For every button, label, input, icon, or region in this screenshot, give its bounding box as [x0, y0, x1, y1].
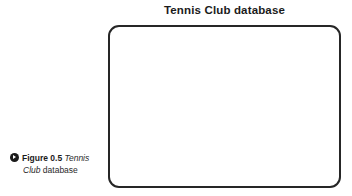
diagram-container: [108, 25, 341, 188]
play-circle-icon: [10, 153, 19, 162]
caption-line-1: Figure 0.5 Tennis: [10, 153, 105, 165]
figure-caption: Figure 0.5 Tennis Club database: [10, 153, 105, 176]
caption-figure-label: Figure 0.5: [22, 153, 65, 163]
caption-line-2: Club database: [10, 165, 105, 177]
caption-subject-italic-line1: Tennis: [65, 153, 90, 163]
caption-subject-italic-line2: Club: [23, 165, 43, 175]
caption-subject-regular: database: [43, 165, 78, 175]
figure-title: Tennis Club database: [108, 3, 341, 17]
